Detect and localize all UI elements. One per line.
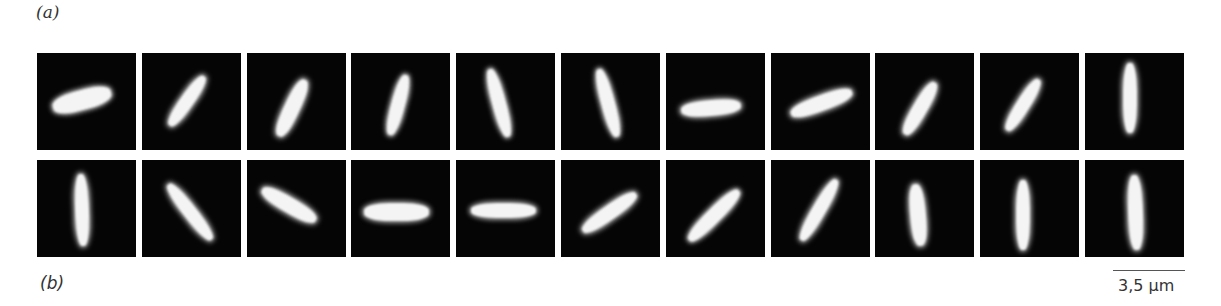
cell-blob	[383, 73, 413, 137]
cell-image-tile	[247, 160, 346, 257]
cell-blob	[164, 72, 210, 129]
cell-image-tile	[771, 160, 870, 257]
cell-blob	[1001, 76, 1045, 134]
cell-blob	[592, 67, 624, 138]
cell-blob	[899, 78, 942, 137]
cell-image-tile	[142, 160, 241, 257]
cell-image-tile	[1085, 53, 1184, 150]
cell-blob	[272, 77, 313, 140]
cell-blob	[74, 174, 91, 246]
cell-blob	[684, 185, 744, 245]
cell-image-tile	[1085, 160, 1184, 257]
cell-blob	[483, 67, 515, 138]
cell-image-tile	[561, 160, 660, 257]
cell-image-tile	[666, 160, 765, 257]
cell-blob	[1016, 180, 1030, 250]
cell-image-tile	[875, 160, 974, 257]
cell-image-tile	[771, 53, 870, 150]
cell-blob	[163, 180, 217, 244]
cell-image-tile	[142, 53, 241, 150]
cell-blob	[50, 83, 113, 118]
cell-blob	[1123, 63, 1137, 133]
cell-image-tile	[561, 53, 660, 150]
cell-image-tile	[980, 160, 1079, 257]
cell-image-tile	[351, 53, 450, 150]
cell-blob	[578, 187, 640, 237]
cell-image-tile	[666, 53, 765, 150]
cell-image-tile	[37, 160, 136, 257]
cell-image-tile	[875, 53, 974, 150]
scale-bar-label: 3,5 µm	[1118, 276, 1174, 295]
cell-blob	[364, 203, 429, 221]
panel-label-b: (b)	[40, 273, 64, 293]
cell-blob	[788, 84, 855, 121]
cell-blob	[907, 183, 928, 246]
cell-blob	[1126, 174, 1144, 249]
cell-blob	[258, 183, 320, 228]
scale-bar	[1113, 270, 1185, 271]
cell-image-tile	[456, 160, 555, 257]
cell-image-tile	[37, 53, 136, 150]
cell-image-tile	[247, 53, 346, 150]
cell-blob	[471, 203, 536, 218]
cell-image-tile	[351, 160, 450, 257]
panel-label-a: (a)	[36, 2, 59, 22]
cell-image-tile	[456, 53, 555, 150]
cell-blob	[795, 176, 842, 244]
cell-blob	[680, 97, 741, 118]
cell-image-tile	[980, 53, 1079, 150]
